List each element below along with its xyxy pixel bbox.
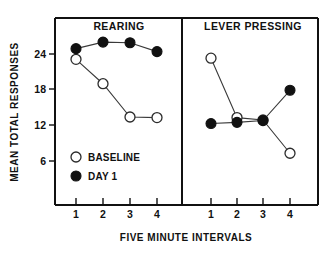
x-tick-label-lever-2: 2 <box>234 208 240 220</box>
y-axis-title: MEAN TOTAL RESPONSES <box>9 42 20 181</box>
data-point-rearing-baseline-4 <box>152 113 162 123</box>
panel-title-rearing: REARING <box>93 20 144 32</box>
y-tick-label-12: 12 <box>34 119 46 131</box>
panel-title-lever-pressing: LEVER PRESSING <box>204 20 302 32</box>
data-point-lever-baseline-4 <box>285 148 295 158</box>
data-point-rearing-baseline-3 <box>125 112 135 122</box>
x-tick-label-lever-4: 4 <box>287 208 293 220</box>
y-tick-label-18: 18 <box>34 83 46 95</box>
legend-label-baseline: BASELINE <box>88 152 140 163</box>
x-tick-label-rearing-2: 2 <box>100 208 106 220</box>
y-tick-label-6: 6 <box>40 155 46 167</box>
data-point-lever-day1-2 <box>232 117 242 127</box>
series-line-lever-baseline <box>211 58 290 153</box>
x-tick-label-lever-1: 1 <box>208 208 214 220</box>
x-tick-label-rearing-3: 3 <box>127 208 133 220</box>
data-point-rearing-day1-4 <box>152 47 162 57</box>
chart-canvas: 24 18 12 6 1 2 3 4 1 2 3 4 REARING LEVER… <box>0 0 333 254</box>
y-tick-label-24: 24 <box>34 48 46 60</box>
data-point-rearing-baseline-2 <box>98 79 108 89</box>
data-point-lever-day1-1 <box>206 119 216 129</box>
data-point-rearing-baseline-1 <box>71 54 81 64</box>
x-tick-label-rearing-4: 4 <box>154 208 160 220</box>
data-point-rearing-day1-3 <box>125 38 135 48</box>
x-tick-label-rearing-1: 1 <box>73 208 79 220</box>
legend-filled-circle-marker <box>71 171 81 181</box>
legend-label-day1: DAY 1 <box>88 171 118 182</box>
data-point-rearing-day1-2 <box>98 37 108 47</box>
x-tick-label-lever-3: 3 <box>260 208 266 220</box>
data-point-lever-baseline-1 <box>206 53 216 63</box>
data-point-lever-day1-4 <box>285 85 295 95</box>
x-axis-title: FIVE MINUTE INTERVALS <box>120 232 252 243</box>
series-line-rearing-baseline <box>76 59 157 117</box>
data-point-rearing-day1-1 <box>71 44 81 54</box>
legend-open-circle-marker <box>71 152 81 162</box>
data-point-lever-day1-3 <box>258 116 268 126</box>
series-line-rearing-day1 <box>76 42 157 52</box>
chart-figure: 24 18 12 6 1 2 3 4 1 2 3 4 REARING LEVER… <box>0 0 333 254</box>
